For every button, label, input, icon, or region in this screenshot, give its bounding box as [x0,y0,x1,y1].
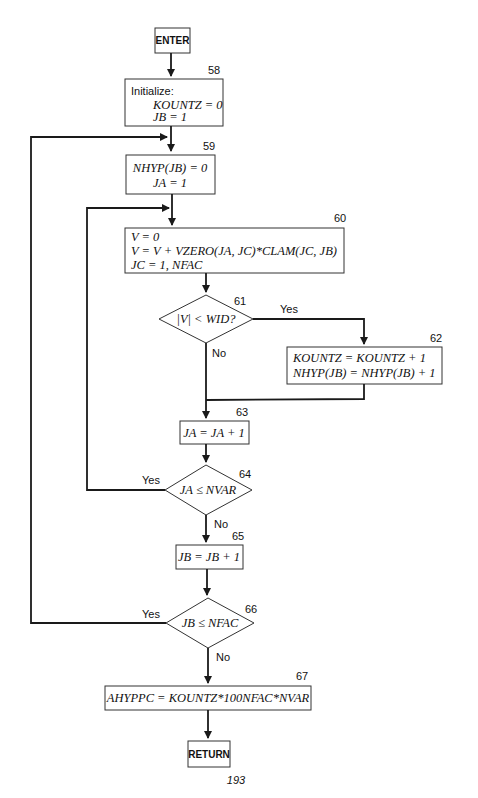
step-line: KOUNTZ = KOUNTZ + 1 [292,351,426,365]
step-line: V = 0 [131,230,160,244]
step-number: 67 [296,670,308,682]
step-line: JA = JA + 1 [183,426,245,440]
return-label: RETURN [188,749,230,760]
enter-label: ENTER [156,35,191,46]
step-number: 59 [203,140,215,152]
step-number: 66 [245,603,257,615]
page-number: 193 [227,774,246,786]
decision-61: 61 |V| < WID? Yes No [159,295,298,359]
no-label: No [212,347,226,359]
step-60: 60 V = 0 V = V + VZERO(JA, JC)*CLAM(JC, … [125,212,346,273]
decision-text: |V| < WID? [176,312,236,326]
yes-label: Yes [142,608,160,620]
step-number: 64 [239,468,251,480]
flowchart: ENTER 58 Initialize: KOUNTZ = 0 JB = 1 5… [0,0,478,798]
decision-text: JA ≤ NVAR [180,483,237,497]
yes-label: Yes [142,474,160,486]
step-line: V = V + VZERO(JA, JC)*CLAM(JC, JB) [131,244,337,258]
step-line: NHYP(JB) = 0 [132,161,208,175]
step-65: 65 JB = JB + 1 [176,530,244,569]
step-line: JC = 1, NFAC [131,258,203,272]
step-title: Initialize: [131,85,174,97]
step-58-initialize: 58 Initialize: KOUNTZ = 0 JB = 1 [125,64,223,126]
step-number: 58 [208,64,220,76]
no-label: No [214,518,228,530]
decision-66: 66 JB ≤ NFAC Yes No [142,598,257,663]
step-number: 61 [234,295,246,307]
decision-text: JB ≤ NFAC [182,616,239,630]
step-63: 63 JA = JA + 1 [180,406,249,444]
step-number: 60 [334,212,346,224]
step-line: JA = 1 [153,176,187,190]
step-line: NHYP(JB) = NHYP(JB) + 1 [292,366,436,380]
no-label: No [216,651,230,663]
step-line: JB = 1 [153,110,187,124]
step-number: 63 [236,406,248,418]
decision-64: 64 JA ≤ NVAR Yes No [142,465,252,530]
return-terminal: RETURN [188,741,230,767]
enter-terminal: ENTER [155,28,190,53]
step-line: AHYPPC = KOUNTZ*100NFAC*NVAR [106,691,310,705]
step-number: 62 [430,332,442,344]
yes-label: Yes [280,303,298,315]
step-number: 65 [232,530,244,542]
step-line: JB = JB + 1 [178,550,240,564]
